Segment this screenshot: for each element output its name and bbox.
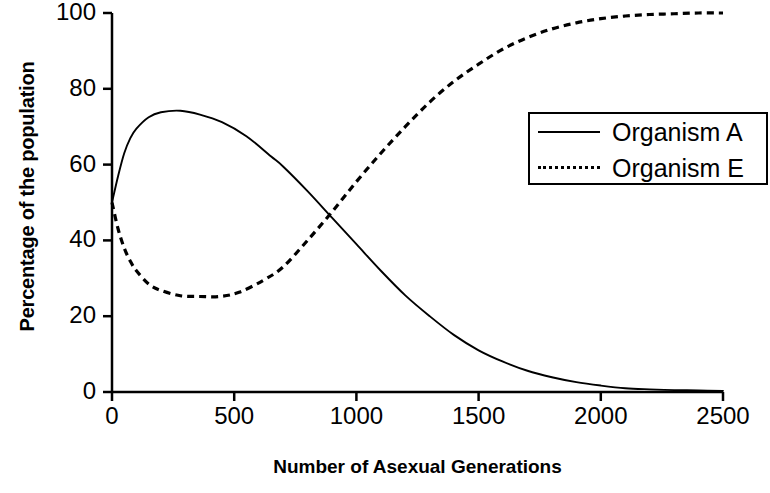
x-tick-label: 2000 [556,404,646,428]
legend-label-organism-a: Organism A [612,116,743,148]
x-tick-label: 1500 [434,404,524,428]
data-curves [112,13,723,391]
x-tick-label: 2500 [678,404,768,428]
x-tick-label: 500 [189,404,279,428]
chart-legend: Organism A Organism E [528,112,768,185]
legend-label-organism-e: Organism E [612,152,744,184]
x-tick-label: 0 [67,404,157,428]
axis-lines [103,13,723,401]
legend-key-dotted-line [538,166,600,169]
legend-item-organism-e: Organism E [530,150,770,186]
legend-key-solid-line [538,131,600,133]
x-axis-title: Number of Asexual Generations [112,456,723,478]
legend-item-organism-a: Organism A [530,114,770,150]
x-tick-label: 1000 [311,404,401,428]
